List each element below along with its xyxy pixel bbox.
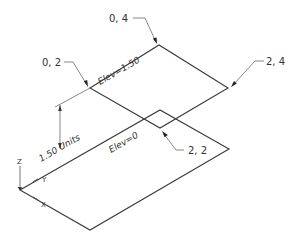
leader-0-4: 0, 4 [109,13,157,44]
diagram-canvas: Elev=1.50 Elev=0 1.50 Units 0, 4 0, 2 2,… [0,0,298,239]
upper-plane [90,45,228,128]
leader-2-2: 2, 2 [162,131,207,156]
point-label-0-4: 0, 4 [109,13,128,24]
point-label-2-4: 2, 4 [266,56,285,67]
lower-plane-elevation-label: Elev=0 [107,130,140,155]
point-label-0-2: 0, 2 [42,57,61,68]
upper-plane-elevation-label: Elev=1.50 [96,55,142,87]
lower-plane [20,110,229,230]
ucs-y-label: Y [41,176,47,184]
point-label-2-2: 2, 2 [188,145,207,156]
ucs-x-label: X [41,201,46,209]
leader-0-2: 0, 2 [42,57,88,87]
leader-2-4: 2, 4 [231,56,285,87]
ucs-z-label: Z [17,158,22,166]
height-dimension: 1.50 Units [37,88,90,164]
